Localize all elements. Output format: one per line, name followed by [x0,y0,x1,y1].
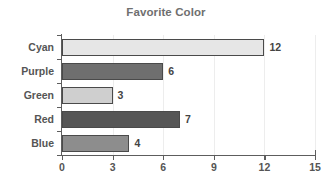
y-tick-1 [57,59,62,60]
y-tick-3 [57,107,62,108]
x-tick-label-0: 0 [47,161,77,173]
bar-red[interactable] [62,111,180,128]
category-label-purple: Purple [0,63,54,80]
y-tick-0 [57,35,62,36]
bar-blue[interactable] [62,135,129,152]
value-label-purple: 6 [168,63,174,80]
x-tick-3 [113,156,114,160]
category-label-red: Red [0,111,54,128]
x-tick-9 [214,156,215,160]
category-label-blue: Blue [0,135,54,152]
x-tick-label-12: 12 [249,161,279,173]
x-tick-label-9: 9 [199,161,229,173]
x-axis-line [61,155,316,156]
value-label-green: 3 [118,87,124,104]
gridline-x-15 [315,35,316,155]
y-axis-line [61,34,62,156]
value-label-blue: 4 [134,135,140,152]
value-label-red: 7 [185,111,191,128]
gridline-x-12 [264,35,265,155]
x-tick-15 [315,156,316,160]
x-tick-label-15: 15 [300,161,330,173]
x-tick-label-3: 3 [98,161,128,173]
x-tick-0 [62,156,63,160]
bar-cyan[interactable] [62,39,264,56]
y-tick-2 [57,83,62,84]
x-tick-label-6: 6 [148,161,178,173]
y-tick-4 [57,131,62,132]
x-tick-6 [163,156,164,160]
category-label-cyan: Cyan [0,39,54,56]
category-label-green: Green [0,87,54,104]
bar-chart-screenshot: Favorite Color CyanPurpleGreenRedBlue 12… [0,0,332,181]
x-tick-12 [264,156,265,160]
bar-green[interactable] [62,87,113,104]
value-label-cyan: 12 [269,39,281,56]
chart-title: Favorite Color [0,6,332,18]
bar-purple[interactable] [62,63,163,80]
